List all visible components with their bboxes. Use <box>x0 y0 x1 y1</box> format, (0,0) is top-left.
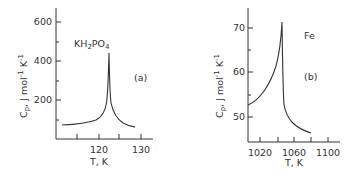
figure: 600 400 200 120 130 T, K (a) KH2PO4 Cp, … <box>0 0 353 178</box>
b-panel-label: (b) <box>304 71 317 82</box>
panel-b <box>248 8 340 142</box>
a-compound-label: KH2PO4 <box>74 38 110 51</box>
b-ylabel: Cp, J mol-1 K-1 <box>213 54 227 118</box>
a-xtick-130: 130 <box>132 144 150 155</box>
a-ytick-400: 400 <box>34 55 52 66</box>
b-ytick-60: 60 <box>233 66 245 77</box>
a-xtick-120: 120 <box>90 144 108 155</box>
b-compound-label: Fe <box>304 30 315 41</box>
b-ytick-50: 50 <box>233 111 245 122</box>
a-xlabel: T, K <box>89 156 109 167</box>
b-xtick-1100: 1100 <box>316 147 340 158</box>
a-ylabel: Cp, J mol-1 K-1 <box>17 54 31 118</box>
a-ytick-600: 600 <box>34 16 52 27</box>
b-xlabel: T, K <box>284 157 304 168</box>
a-panel-label: (a) <box>134 72 147 83</box>
b-ytick-70: 70 <box>233 22 245 33</box>
a-ytick-200: 200 <box>34 94 52 105</box>
a-curve <box>62 53 135 127</box>
b-xtick-1020: 1020 <box>248 147 272 158</box>
b-curve <box>248 22 311 133</box>
